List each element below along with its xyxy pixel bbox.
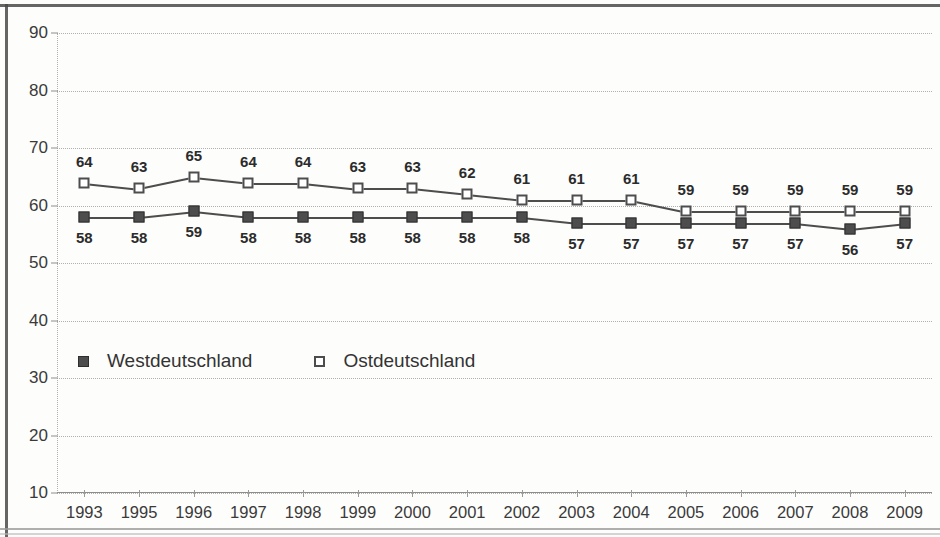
filled-square-icon <box>78 356 89 367</box>
series-line-segment <box>577 200 632 202</box>
series-line-segment <box>303 217 358 219</box>
data-point-label: 57 <box>896 235 913 252</box>
y-tick-mark <box>51 90 58 91</box>
data-point-marker[interactable] <box>899 206 910 217</box>
x-tick-mark <box>850 490 851 497</box>
data-point-label: 61 <box>568 170 585 187</box>
x-tick-label: 2002 <box>503 503 540 522</box>
x-tick-mark <box>303 490 304 497</box>
gridline <box>57 321 932 322</box>
data-point-label: 58 <box>295 229 312 246</box>
x-tick-mark <box>795 490 796 497</box>
y-tick-mark <box>51 148 58 149</box>
x-tick-mark <box>522 490 523 497</box>
data-point-marker[interactable] <box>352 212 363 223</box>
x-tick-mark <box>741 490 742 497</box>
x-tick-label: 1996 <box>175 503 212 522</box>
data-point-marker[interactable] <box>571 217 582 228</box>
data-point-label: 59 <box>732 181 749 198</box>
x-tick-label: 2008 <box>832 503 869 522</box>
series-line-segment <box>248 217 303 219</box>
gridline <box>57 33 932 34</box>
data-point-label: 58 <box>131 229 148 246</box>
x-tick-mark <box>412 490 413 497</box>
data-point-label: 58 <box>349 229 366 246</box>
series-line-segment <box>412 188 467 196</box>
data-point-marker[interactable] <box>735 206 746 217</box>
data-point-label: 64 <box>295 153 312 170</box>
data-point-marker[interactable] <box>844 206 855 217</box>
x-tick-label: 2009 <box>886 503 923 522</box>
y-tick-label: 20 <box>29 426 48 446</box>
series-line-segment <box>303 183 358 191</box>
data-point-marker[interactable] <box>352 183 363 194</box>
data-point-label: 58 <box>459 229 476 246</box>
data-point-marker[interactable] <box>462 212 473 223</box>
data-point-marker[interactable] <box>516 212 527 223</box>
series-line-segment <box>248 183 303 185</box>
series-line-segment <box>686 211 741 213</box>
data-point-marker[interactable] <box>844 223 855 234</box>
y-tick-mark <box>51 493 58 494</box>
x-tick-mark <box>248 490 249 497</box>
data-point-marker[interactable] <box>298 212 309 223</box>
y-tick-mark <box>51 378 58 379</box>
data-point-label: 59 <box>185 223 202 240</box>
data-point-marker[interactable] <box>680 206 691 217</box>
x-tick-label: 1997 <box>230 503 267 522</box>
data-point-marker[interactable] <box>626 217 637 228</box>
data-point-marker[interactable] <box>188 171 199 182</box>
x-tick-label: 2001 <box>449 503 486 522</box>
chart-legend: Westdeutschland Ostdeutschland <box>78 350 475 372</box>
gridline <box>57 263 932 264</box>
x-tick-mark <box>631 490 632 497</box>
data-point-label: 58 <box>404 229 421 246</box>
series-line-segment <box>577 223 632 225</box>
legend-item-westdeutschland[interactable]: Westdeutschland <box>78 350 252 372</box>
data-point-label: 65 <box>185 147 202 164</box>
data-point-marker[interactable] <box>243 212 254 223</box>
series-line-segment <box>358 217 413 219</box>
data-point-marker[interactable] <box>790 206 801 217</box>
data-point-marker[interactable] <box>407 183 418 194</box>
data-point-marker[interactable] <box>899 217 910 228</box>
data-point-marker[interactable] <box>516 194 527 205</box>
data-point-marker[interactable] <box>735 217 746 228</box>
x-tick-label: 1995 <box>121 503 158 522</box>
x-tick-label: 2006 <box>722 503 759 522</box>
data-point-marker[interactable] <box>79 212 90 223</box>
data-point-label: 59 <box>678 181 695 198</box>
series-line-segment <box>522 217 577 225</box>
y-tick-label: 10 <box>29 483 48 503</box>
data-point-label: 59 <box>896 181 913 198</box>
data-point-label: 57 <box>732 235 749 252</box>
x-tick-label: 2004 <box>613 503 650 522</box>
data-point-label: 59 <box>842 181 859 198</box>
y-tick-label: 90 <box>29 23 48 43</box>
data-point-marker[interactable] <box>298 177 309 188</box>
legend-item-ostdeutschland[interactable]: Ostdeutschland <box>314 350 475 372</box>
x-tick-label: 2005 <box>668 503 705 522</box>
data-point-marker[interactable] <box>134 183 145 194</box>
y-tick-label: 80 <box>29 81 48 101</box>
data-point-marker[interactable] <box>571 194 582 205</box>
data-point-marker[interactable] <box>462 189 473 200</box>
data-point-marker[interactable] <box>680 217 691 228</box>
x-tick-label: 2003 <box>558 503 595 522</box>
data-point-marker[interactable] <box>134 212 145 223</box>
series-line-segment <box>467 194 522 202</box>
data-point-marker[interactable] <box>790 217 801 228</box>
series-line-segment <box>358 188 413 190</box>
y-tick-label: 30 <box>29 368 48 388</box>
y-tick-mark <box>51 320 58 321</box>
x-tick-mark <box>905 490 906 497</box>
data-point-marker[interactable] <box>626 194 637 205</box>
data-point-marker[interactable] <box>188 206 199 217</box>
series-line-segment <box>84 217 139 219</box>
gridline <box>57 91 932 92</box>
data-point-label: 63 <box>349 158 366 175</box>
data-point-marker[interactable] <box>407 212 418 223</box>
data-point-marker[interactable] <box>79 177 90 188</box>
data-point-label: 64 <box>76 153 93 170</box>
data-point-marker[interactable] <box>243 177 254 188</box>
